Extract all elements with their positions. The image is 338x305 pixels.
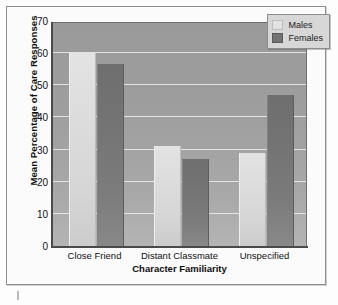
bar-females-0 bbox=[97, 64, 124, 246]
legend-swatch-females bbox=[272, 33, 283, 43]
legend-swatch-males bbox=[272, 20, 283, 30]
bar-females-2 bbox=[267, 95, 294, 246]
bar-females-1 bbox=[182, 159, 209, 246]
legend-label: Females bbox=[288, 33, 323, 43]
bar-males-2 bbox=[239, 153, 266, 246]
figure-root: 010203040506070 Close FriendDistant Clas… bbox=[0, 0, 338, 305]
bar-males-0 bbox=[69, 53, 96, 246]
legend-item-females: Females bbox=[272, 32, 323, 44]
y-axis-title: Mean Percentage of Care Responses bbox=[28, 6, 39, 196]
legend-label: Males bbox=[288, 20, 312, 30]
scan-artifact-mark bbox=[17, 291, 19, 300]
chart-legend: MalesFemales bbox=[267, 14, 330, 49]
x-axis-line bbox=[51, 246, 308, 248]
x-tick-label: Unspecified bbox=[205, 250, 325, 261]
y-axis-line bbox=[51, 22, 53, 248]
bar-males-1 bbox=[154, 146, 181, 246]
plot-area bbox=[52, 22, 307, 247]
legend-item-males: Males bbox=[272, 19, 323, 31]
x-axis-title: Character Familiarity bbox=[52, 263, 307, 274]
y-tick-label: 10 bbox=[22, 210, 48, 220]
